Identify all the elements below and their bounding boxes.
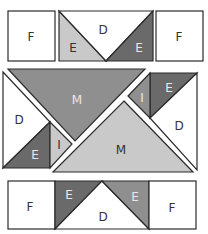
label-right-block-i: I (140, 91, 144, 105)
label-left-block-e: E (31, 148, 39, 162)
label-left-block-i: I (57, 138, 61, 152)
label-left-block-d: D (14, 113, 23, 127)
label-top-left-f: F (28, 30, 35, 44)
label-right-block-e: E (165, 81, 173, 95)
label-bottom-large-m: M (116, 143, 126, 157)
label-bottom-left-e: E (65, 188, 73, 202)
label-top-right-f: F (176, 30, 183, 44)
label-right-block-d: D (174, 119, 183, 133)
label-bottom-right-e: E (131, 190, 139, 204)
label-bottom-left-f: F (27, 200, 34, 214)
quilt-block-diagram: F E D E F M D E I E I D M F E D E F (0, 0, 208, 234)
label-top-large-m: M (72, 93, 82, 107)
label-bottom-center-d: D (98, 210, 107, 224)
label-bottom-right-f: F (169, 201, 176, 215)
label-top-right-e: E (135, 41, 143, 55)
label-top-center-d: D (98, 23, 107, 37)
label-top-left-e: E (69, 41, 77, 55)
